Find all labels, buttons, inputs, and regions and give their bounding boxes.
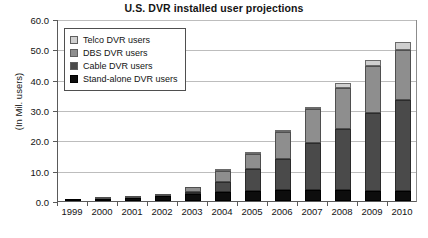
y-axis-tick-label: 0.0 [0, 197, 49, 208]
x-axis-tick-mark [327, 202, 328, 206]
y-axis-tick-label: 60.0 [0, 15, 49, 26]
bar-segment[interactable] [305, 143, 321, 190]
x-axis-tick-mark [207, 202, 208, 206]
legend-item-label: Stand-alone DVR users [83, 74, 178, 84]
x-axis-tick-mark [267, 202, 268, 206]
bar-segment[interactable] [365, 191, 381, 201]
bar-segment[interactable] [215, 182, 231, 192]
x-axis-tick-mark [387, 202, 388, 206]
x-axis-tick-label: 2010 [391, 206, 412, 217]
bar-segment[interactable] [215, 192, 231, 201]
bar-segment[interactable] [245, 191, 261, 201]
bar-segment[interactable] [245, 169, 261, 190]
legend-item-label: Cable DVR users [83, 61, 153, 71]
x-axis-tick-mark [57, 202, 58, 206]
bar-column[interactable] [95, 197, 111, 201]
bar-column[interactable] [305, 107, 321, 201]
bar-segment[interactable] [275, 190, 291, 201]
x-axis-tick-label: 2001 [121, 206, 142, 217]
legend-swatch-icon [70, 62, 78, 70]
bar-column[interactable] [245, 152, 261, 201]
x-axis-tick-label: 2005 [241, 206, 262, 217]
bar-segment[interactable] [395, 50, 411, 100]
x-axis-tick-mark [87, 202, 88, 206]
bar-segment[interactable] [185, 194, 201, 201]
bar-column[interactable] [335, 83, 351, 201]
x-axis-tick-label: 2006 [271, 206, 292, 217]
y-axis-tick-label: 40.0 [0, 75, 49, 86]
legend-item[interactable]: Cable DVR users [70, 60, 178, 72]
legend-swatch-icon [70, 75, 78, 83]
bar-segment[interactable] [125, 198, 141, 201]
bar-column[interactable] [125, 196, 141, 201]
y-axis-tick-label: 30.0 [0, 106, 49, 117]
legend-swatch-icon [70, 49, 78, 57]
x-axis-tick-mark [177, 202, 178, 206]
bar-segment[interactable] [95, 199, 111, 201]
bar-segment[interactable] [395, 42, 411, 50]
bar-segment[interactable] [215, 171, 231, 182]
bar-segment[interactable] [275, 159, 291, 190]
chart-legend: Telco DVR usersDBS DVR usersCable DVR us… [64, 28, 186, 91]
bar-column[interactable] [155, 194, 171, 201]
bar-segment[interactable] [65, 199, 81, 201]
bar-segment[interactable] [395, 100, 411, 191]
chart-title: U.S. DVR installed user projections [0, 2, 428, 14]
x-axis-tick-label: 2009 [361, 206, 382, 217]
x-axis-tick-label: 2008 [331, 206, 352, 217]
x-axis-tick-label: 2003 [181, 206, 202, 217]
x-axis-tick-mark [297, 202, 298, 206]
bar-segment[interactable] [335, 190, 351, 201]
y-axis-tick-mark [53, 20, 57, 21]
legend-item-label: DBS DVR users [83, 48, 148, 58]
bar-segment[interactable] [395, 191, 411, 201]
bar-column[interactable] [215, 169, 231, 201]
y-axis-tick-mark [53, 81, 57, 82]
chart-container: U.S. DVR installed user projections (In … [0, 0, 428, 238]
bar-column[interactable] [395, 42, 411, 201]
bar-segment[interactable] [155, 196, 171, 201]
y-axis-tick-label: 50.0 [0, 45, 49, 56]
legend-item[interactable]: DBS DVR users [70, 47, 178, 59]
x-axis-tick-label: 2000 [91, 206, 112, 217]
y-axis-tick-label: 10.0 [0, 166, 49, 177]
x-axis-tick-mark [147, 202, 148, 206]
x-axis-tick-mark [357, 202, 358, 206]
legend-item[interactable]: Stand-alone DVR users [70, 73, 178, 85]
x-axis-tick-label: 2002 [151, 206, 172, 217]
bar-segment[interactable] [305, 109, 321, 142]
legend-item-label: Telco DVR users [83, 35, 150, 45]
bar-column[interactable] [275, 130, 291, 201]
x-axis-tick-label: 1999 [61, 206, 82, 217]
x-axis-tick-label: 2007 [301, 206, 322, 217]
legend-swatch-icon [70, 36, 78, 44]
y-axis-tick-mark [53, 172, 57, 173]
y-axis-tick-label: 20.0 [0, 136, 49, 147]
y-axis-tick-mark [53, 111, 57, 112]
legend-item[interactable]: Telco DVR users [70, 34, 178, 46]
x-axis-tick-label: 2004 [211, 206, 232, 217]
bar-segment[interactable] [335, 88, 351, 129]
bar-column[interactable] [185, 187, 201, 201]
bar-segment[interactable] [365, 113, 381, 190]
bar-segment[interactable] [305, 190, 321, 201]
bar-column[interactable] [365, 60, 381, 201]
bar-segment[interactable] [245, 154, 261, 170]
bar-column[interactable] [65, 199, 81, 201]
bar-segment[interactable] [335, 129, 351, 191]
x-axis-tick-mark [117, 202, 118, 206]
bar-segment[interactable] [275, 132, 291, 159]
x-axis-tick-mark [237, 202, 238, 206]
y-axis-tick-mark [53, 50, 57, 51]
y-axis-tick-mark [53, 141, 57, 142]
bar-segment[interactable] [365, 66, 381, 113]
